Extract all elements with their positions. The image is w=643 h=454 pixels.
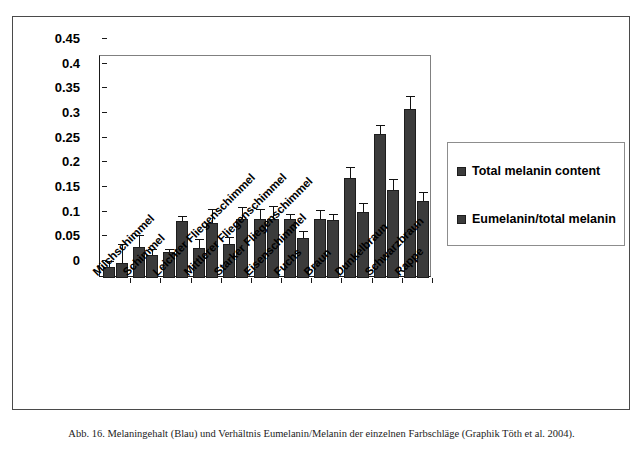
- error-bar-cap: [178, 216, 187, 217]
- error-bar: [363, 203, 364, 213]
- error-bar-cap: [376, 125, 385, 126]
- y-axis-tick-mark: [102, 260, 107, 261]
- error-bar: [380, 125, 381, 134]
- y-axis: 00.050.10.150.20.250.30.350.40.45: [20, 0, 80, 454]
- legend-item-eumelanin-total-melanin: Eumelanin/total melanin: [457, 212, 616, 226]
- plot-area: [99, 55, 431, 277]
- error-bar-cap: [389, 179, 398, 180]
- error-bar-cap: [256, 209, 265, 210]
- chart-bar: [223, 244, 235, 278]
- error-bar: [199, 239, 200, 249]
- error-bar: [122, 244, 123, 263]
- y-axis-tick-label: 0: [73, 254, 80, 267]
- x-axis-tick-mark: [221, 278, 222, 283]
- error-bar-cap: [165, 249, 174, 250]
- error-bar: [139, 235, 140, 247]
- error-bar-cap: [238, 207, 247, 208]
- chart-bar: [146, 255, 158, 278]
- y-axis-tick-label: 0.2: [62, 155, 80, 168]
- chart-bar: [254, 219, 266, 278]
- y-axis-tick-mark: [102, 161, 107, 162]
- legend-swatch-icon: [457, 167, 466, 176]
- chart-bar: [103, 267, 115, 278]
- y-axis-tick-label: 0.15: [55, 180, 80, 193]
- chart-bar: [206, 223, 218, 278]
- legend-label: Total melanin content: [472, 164, 600, 178]
- chart-bar: [417, 201, 429, 278]
- y-axis-tick-mark: [102, 186, 107, 187]
- chart-bar: [314, 219, 326, 278]
- y-axis-tick-mark: [102, 63, 107, 64]
- chart-bar: [193, 248, 205, 278]
- legend-swatch-icon: [457, 215, 466, 224]
- y-axis-tick-mark: [102, 137, 107, 138]
- chart-bar: [374, 134, 386, 278]
- error-bar-cap: [316, 210, 325, 211]
- x-axis-tick-mark: [191, 278, 192, 283]
- error-bar-cap: [419, 192, 428, 193]
- error-bar: [242, 207, 243, 218]
- error-bar-cap: [195, 239, 204, 240]
- figure-caption: Abb. 16. Melaningehalt (Blau) und Verhäl…: [0, 428, 643, 439]
- error-bar: [393, 179, 394, 190]
- error-bar-cap: [269, 206, 278, 207]
- chart-bar: [176, 221, 188, 278]
- error-bar: [410, 96, 411, 109]
- x-axis-tick-mark: [130, 278, 131, 283]
- error-bar: [320, 210, 321, 219]
- x-axis-tick-mark: [372, 278, 373, 283]
- error-bar-cap: [148, 249, 157, 250]
- chart-bar: [284, 219, 296, 278]
- error-bar-cap: [406, 96, 415, 97]
- y-axis-tick-mark: [102, 211, 107, 212]
- error-bar: [229, 237, 230, 244]
- chart-bar: [297, 238, 309, 278]
- error-bar-cap: [135, 235, 144, 236]
- y-axis-tick-label: 0.35: [55, 81, 80, 94]
- legend-item-total-melanin-content: Total melanin content: [457, 164, 600, 178]
- chart-bar: [344, 178, 356, 278]
- y-axis-tick-label: 0.45: [55, 32, 80, 45]
- chart-bar: [267, 219, 279, 278]
- chart-bar: [133, 247, 145, 278]
- error-bar-cap: [225, 237, 234, 238]
- error-bar: [350, 167, 351, 178]
- error-bar: [273, 206, 274, 218]
- error-bar-cap: [118, 244, 127, 245]
- x-axis-tick-mark: [311, 278, 312, 283]
- error-bar-cap: [105, 261, 114, 262]
- figure-frame: Total melanin content Eumelanin/total me…: [12, 16, 630, 410]
- error-bar-cap: [359, 203, 368, 204]
- error-bar: [423, 192, 424, 201]
- y-axis-tick-label: 0.05: [55, 229, 80, 242]
- x-axis-tick-mark: [281, 278, 282, 283]
- chart-bar: [163, 252, 175, 278]
- x-axis-tick-mark: [251, 278, 252, 283]
- error-bar-cap: [208, 209, 217, 210]
- error-bar: [260, 209, 261, 219]
- chart-bar: [357, 212, 369, 278]
- chart-bar: [404, 109, 416, 278]
- error-bar-cap: [299, 231, 308, 232]
- y-axis-tick-label: 0.3: [62, 106, 80, 119]
- error-bar: [212, 209, 213, 222]
- y-axis-tick-mark: [102, 112, 107, 113]
- legend-label: Eumelanin/total melanin: [472, 212, 616, 226]
- chart-bar: [236, 219, 248, 278]
- error-bar-cap: [346, 167, 355, 168]
- chart-bar: [387, 190, 399, 278]
- y-axis-tick-mark: [102, 38, 107, 39]
- y-axis-tick-mark: [102, 87, 107, 88]
- error-bar-cap: [286, 214, 295, 215]
- chart-bar: [327, 220, 339, 278]
- x-axis-tick-mark: [160, 278, 161, 283]
- chart-bar: [116, 263, 128, 278]
- y-axis-tick-label: 0.25: [55, 131, 80, 144]
- y-axis-tick-mark: [102, 235, 107, 236]
- x-axis-tick-mark: [432, 278, 433, 283]
- y-axis-tick-label: 0.1: [62, 205, 80, 218]
- chart-legend: Total melanin content Eumelanin/total me…: [447, 142, 625, 246]
- x-axis-tick-mark: [402, 278, 403, 283]
- y-axis-tick-label: 0.4: [62, 57, 80, 70]
- x-axis-tick-mark: [341, 278, 342, 283]
